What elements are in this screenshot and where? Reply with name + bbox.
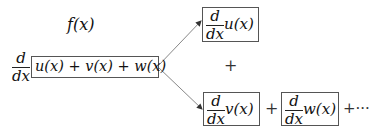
- numerator: d: [210, 94, 222, 109]
- numerator: d: [209, 9, 221, 24]
- main-derivative-operator: d dx: [12, 51, 30, 84]
- denominator: dx: [206, 27, 224, 42]
- main-expression-box: u(x) + v(x) + w(x): [31, 56, 159, 78]
- trailing-ellipsis: +···: [343, 99, 370, 117]
- operator-numerator: d: [15, 51, 27, 66]
- function-v: v(x): [225, 100, 254, 118]
- function-w: w(x): [303, 100, 336, 118]
- derivative-v-operator: d dx: [207, 94, 225, 127]
- denominator: dx: [207, 112, 225, 127]
- numerator: d: [288, 94, 300, 109]
- between-plus: +: [265, 99, 278, 118]
- denominator: dx: [285, 112, 303, 127]
- middle-plus: +: [224, 56, 237, 75]
- derivative-u-box: d dx u(x): [202, 7, 259, 42]
- derivative-v-box: d dx v(x): [203, 92, 260, 126]
- main-expression: u(x) + v(x) + w(x): [35, 58, 166, 74]
- function-label: f(x): [67, 15, 94, 34]
- operator-denominator: dx: [12, 69, 30, 84]
- derivative-w-box: d dx w(x): [281, 92, 339, 126]
- function-u: u(x): [224, 15, 254, 33]
- derivative-u-operator: d dx: [206, 9, 224, 42]
- derivative-w-operator: d dx: [285, 94, 303, 127]
